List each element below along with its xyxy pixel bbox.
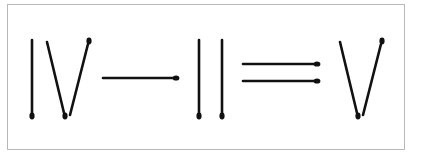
matchstick[interactable] [103,75,179,80]
matchstick[interactable] [47,42,68,119]
numeral-iv [29,38,91,120]
matchstick-equation [0,0,426,156]
numeral-ii [196,40,224,119]
matchstick[interactable] [70,38,92,115]
matchstick[interactable] [29,40,34,119]
matchstick[interactable] [196,40,201,119]
equals-sign [243,61,320,83]
matchstick[interactable] [243,78,320,83]
numeral-v [340,38,385,120]
matchstick[interactable] [219,40,224,119]
minus-sign [103,75,179,80]
matchstick[interactable] [243,61,320,66]
matchstick[interactable] [363,38,385,115]
matchstick[interactable] [340,42,361,119]
